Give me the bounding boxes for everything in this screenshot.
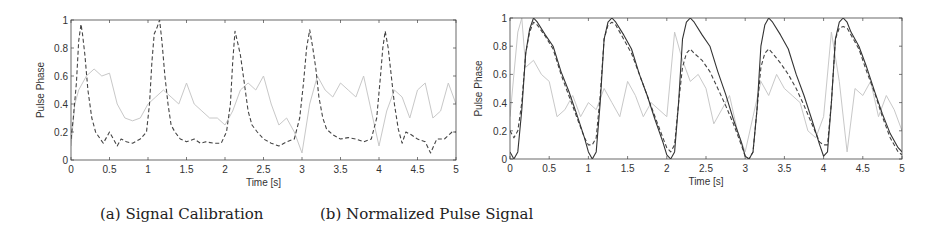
x-tick-label: 2.5	[699, 163, 713, 174]
x-tick-label: 2.5	[257, 164, 271, 175]
x-tick-label: 0.5	[542, 163, 556, 174]
y-tick-label: 0.8	[493, 41, 507, 52]
x-tick-label: 0.5	[103, 164, 117, 175]
y-tick-label: 0.2	[493, 126, 507, 137]
series-light	[510, 18, 902, 152]
series-light	[71, 69, 456, 153]
y-tick-label: 1	[501, 13, 507, 24]
x-tick-label: 4.5	[411, 164, 425, 175]
x-tick-label: 4	[821, 163, 827, 174]
y-axis-label: Pulse Phase	[473, 60, 484, 117]
x-tick-label: 2	[222, 164, 228, 175]
x-tick-label: 5	[899, 163, 905, 174]
chart-panel-normalized-pulse: 00.511.522.533.544.5500.20.40.60.81Time …	[470, 0, 933, 239]
x-tick-label: 3	[742, 163, 748, 174]
x-tick-label: 1.5	[621, 163, 635, 174]
x-tick-label: 4	[376, 164, 382, 175]
x-tick-label: 2	[664, 163, 670, 174]
chart-normalized-pulse-signal: 00.511.522.533.544.5500.20.40.60.81Time …	[470, 0, 933, 200]
series-dashed	[71, 20, 456, 153]
caption-normalized-pulse-signal: (b) Normalized Pulse Signal	[320, 205, 533, 223]
y-tick-label: 0.8	[54, 43, 68, 54]
y-tick-label: 0.6	[54, 71, 68, 82]
x-tick-label: 1.5	[180, 164, 194, 175]
x-tick-label: 3.5	[777, 163, 791, 174]
x-tick-label: 1	[145, 164, 151, 175]
y-tick-label: 0.4	[493, 98, 507, 109]
y-tick-label: 0.6	[493, 69, 507, 80]
x-tick-label: 3.5	[334, 164, 348, 175]
caption-signal-calibration: (a) Signal Calibration	[100, 205, 264, 223]
y-axis-label: Pulse Phase	[35, 61, 46, 118]
x-tick-label: 0	[68, 164, 74, 175]
chart-signal-calibration: 00.511.522.533.544.5500.20.40.60.81Time …	[0, 0, 470, 200]
x-axis-label: Time [s]	[688, 176, 723, 187]
plot-frame	[71, 20, 456, 160]
y-tick-label: 0	[62, 155, 68, 166]
x-tick-label: 1	[586, 163, 592, 174]
x-tick-label: 0	[507, 163, 513, 174]
y-tick-label: 1	[62, 15, 68, 26]
x-tick-label: 4.5	[856, 163, 870, 174]
x-tick-label: 5	[453, 164, 459, 175]
chart-panel-signal-calibration: 00.511.522.533.544.5500.20.40.60.81Time …	[0, 0, 470, 239]
y-tick-label: 0.2	[54, 127, 68, 138]
y-tick-label: 0	[501, 154, 507, 165]
x-tick-label: 3	[299, 164, 305, 175]
y-tick-label: 0.4	[54, 99, 68, 110]
x-axis-label: Time [s]	[246, 177, 281, 188]
